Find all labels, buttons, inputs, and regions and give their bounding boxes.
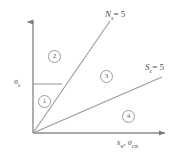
y-axis-tick-subscript: s: [18, 82, 20, 88]
region-marker-4: 4: [122, 110, 135, 123]
diagram-canvas: [0, 0, 189, 157]
curve-label-ns-equals: = 5: [113, 9, 125, 19]
y-axis-tick-label: σs: [14, 78, 20, 88]
region-marker-1: 1: [38, 95, 51, 108]
curve-label-ns: Ns= 5: [105, 10, 125, 21]
curve-label-sc-equals: = 5: [152, 62, 164, 72]
x-axis-label-second-subscript: cm: [132, 143, 138, 149]
x-axis-label: sw, σcm: [117, 139, 138, 149]
region-marker-2: 2: [48, 50, 61, 63]
figure-container: Ns= 5 Sc= 5 σs sw, σcm 1 2 3 4: [0, 0, 189, 157]
x-axis-label-comma: ,: [124, 138, 126, 147]
curve-label-sc: Sc= 5: [145, 63, 164, 74]
region-marker-3: 3: [100, 70, 113, 83]
